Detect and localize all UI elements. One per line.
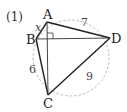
label-bc-6: 6 xyxy=(29,63,36,76)
segment-cd xyxy=(48,38,110,95)
right-angle-mark xyxy=(47,33,53,39)
problem-number: (1) xyxy=(6,10,23,24)
circumcircle xyxy=(33,20,109,96)
label-ab-x: x xyxy=(35,21,42,34)
segment-ad xyxy=(47,22,110,38)
label-b: B xyxy=(26,32,36,47)
label-ad-7: 7 xyxy=(81,16,88,29)
geometry-figure: (1) A B C D x 7 6 9 xyxy=(0,0,127,112)
label-a: A xyxy=(42,7,53,22)
label-d: D xyxy=(111,31,121,46)
segment-bc xyxy=(36,39,48,95)
label-c: C xyxy=(43,96,53,111)
label-cd-9: 9 xyxy=(86,70,93,83)
